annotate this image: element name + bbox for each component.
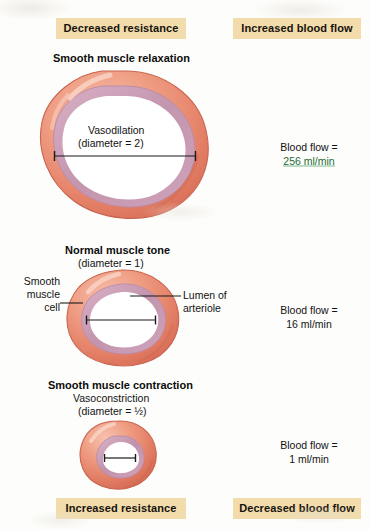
- callout-smooth-line1: Smooth: [24, 275, 60, 287]
- banner-increased-resistance: Increased resistance: [56, 498, 186, 519]
- label-vasoconstriction: Vasoconstriction: [73, 392, 149, 404]
- callout-smooth-line3: cell: [44, 301, 60, 313]
- banner-increased-blood-flow: Increased blood flow: [233, 18, 361, 39]
- blood-flow-prefix-2: Blood flow =: [280, 304, 338, 316]
- blood-flow-value-1: 256 ml/min: [283, 155, 334, 167]
- callout-lumen-line1: Lumen of: [183, 289, 227, 301]
- heading-smooth-muscle-contraction: Smooth muscle contraction: [48, 379, 193, 391]
- blood-flow-normal: Blood flow = 16 ml/min: [257, 303, 361, 331]
- blood-flow-constricted: Blood flow = 1 ml/min: [257, 438, 361, 466]
- measure-bar-normal: [84, 314, 158, 326]
- callout-smooth-line2: muscle: [27, 288, 60, 300]
- label-diameter-half: (diameter = ½): [78, 405, 147, 417]
- callout-smooth-muscle-cell: Smooth muscle cell: [8, 275, 60, 314]
- blood-flow-value-2: 16 ml/min: [286, 318, 332, 330]
- measure-bar-dilated: [52, 150, 198, 162]
- label-diameter-2: (diameter = 2): [78, 137, 144, 149]
- leader-line-smooth-muscle-cell: [60, 300, 84, 306]
- blood-flow-prefix-1: Blood flow =: [280, 141, 338, 153]
- callout-lumen-of-arteriole: Lumen of arteriole: [183, 289, 253, 315]
- leader-line-lumen: [130, 293, 182, 299]
- heading-smooth-muscle-relaxation: Smooth muscle relaxation: [53, 52, 190, 64]
- label-diameter-1: (diameter = 1): [78, 257, 144, 269]
- blood-flow-prefix-3: Blood flow =: [280, 439, 338, 451]
- measure-bar-constricted: [102, 452, 138, 464]
- banner-decreased-blood-flow: Decreased blood flow: [233, 498, 361, 519]
- diagram-page: Decreased resistance Increased blood flo…: [0, 0, 371, 530]
- blood-flow-dilated: Blood flow = 256 ml/min: [257, 140, 361, 168]
- callout-lumen-line2: arteriole: [183, 302, 221, 314]
- heading-normal-muscle-tone: Normal muscle tone: [65, 244, 170, 256]
- blood-flow-value-3: 1 ml/min: [289, 453, 329, 465]
- label-vasodilation: Vasodilation: [88, 124, 144, 136]
- banner-decreased-resistance: Decreased resistance: [56, 18, 186, 39]
